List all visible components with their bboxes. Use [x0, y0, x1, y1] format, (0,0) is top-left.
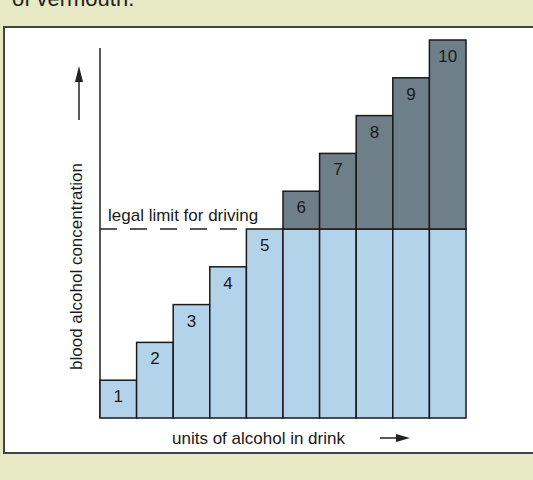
x-axis-label: units of alcohol in drink: [172, 429, 345, 448]
bar-number-label: 1: [114, 387, 123, 406]
legal-limit-label: legal limit for driving: [108, 206, 258, 225]
bar-below-limit: [320, 229, 357, 418]
bar-number-label: 10: [438, 47, 457, 66]
bar-below-limit: [393, 229, 430, 418]
x-axis-arrow-icon: [396, 434, 410, 442]
bar-number-label: 7: [333, 160, 342, 179]
bar-number-label: 4: [223, 274, 232, 293]
bar-below-limit: [429, 229, 466, 418]
bar-number-label: 3: [187, 312, 196, 331]
bar-below-limit: [356, 229, 393, 418]
bar-number-label: 9: [406, 85, 415, 104]
bar-above-limit: [429, 40, 466, 229]
bar: [246, 229, 283, 418]
bar-number-label: 5: [260, 236, 269, 255]
y-axis-arrow-icon: [75, 66, 83, 82]
bar-number-label: 8: [370, 123, 379, 142]
bar-below-limit: [283, 229, 320, 418]
bar-number-label: 2: [150, 349, 159, 368]
y-axis-label: blood alcohol concentration: [67, 163, 86, 370]
bar-number-label: 6: [297, 198, 306, 217]
